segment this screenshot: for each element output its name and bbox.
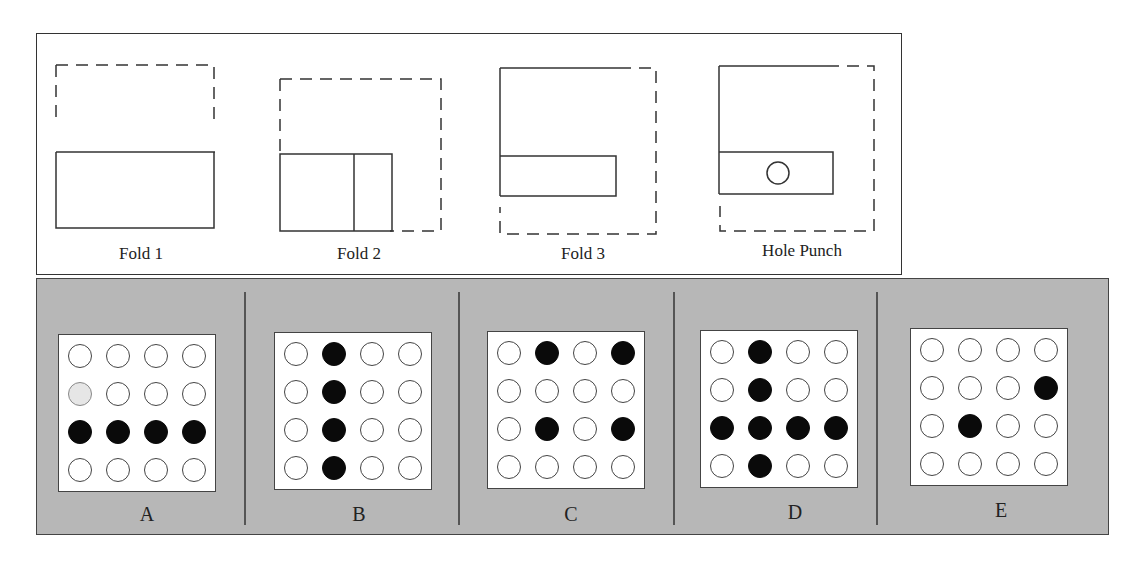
empty-hole [786, 378, 810, 402]
empty-hole [182, 458, 206, 482]
fold1-label: Fold 1 [119, 244, 163, 264]
empty-hole [182, 382, 206, 406]
fold3-figure [500, 68, 656, 234]
empty-hole [710, 454, 734, 478]
punched-hole [182, 420, 206, 444]
empty-hole [611, 379, 635, 403]
empty-hole [284, 418, 308, 442]
empty-hole [786, 340, 810, 364]
punched-hole [106, 420, 130, 444]
empty-hole [573, 417, 597, 441]
punched-hole [535, 341, 559, 365]
empty-hole [920, 452, 944, 476]
empty-hole [182, 344, 206, 368]
option-c-card[interactable] [487, 331, 645, 489]
option-d-card[interactable] [700, 330, 858, 488]
empty-hole [360, 456, 384, 480]
empty-hole [106, 344, 130, 368]
option-e-label: E [995, 499, 1007, 522]
empty-hole [106, 458, 130, 482]
empty-hole [144, 458, 168, 482]
empty-hole [398, 342, 422, 366]
punched-hole [748, 454, 772, 478]
empty-hole [284, 342, 308, 366]
divider [244, 292, 246, 525]
option-b-card[interactable] [274, 332, 432, 490]
empty-hole [996, 414, 1020, 438]
divider [876, 292, 878, 525]
empty-hole [535, 455, 559, 479]
empty-hole [1034, 338, 1058, 362]
empty-hole [573, 379, 597, 403]
punch-figure [719, 66, 874, 231]
punched-hole [611, 417, 635, 441]
empty-hole [398, 456, 422, 480]
empty-hole [360, 342, 384, 366]
empty-hole [106, 382, 130, 406]
empty-hole [497, 379, 521, 403]
empty-hole [920, 338, 944, 362]
punched-hole [322, 456, 346, 480]
empty-hole [497, 341, 521, 365]
punched-hole [322, 380, 346, 404]
fold2-figure [280, 79, 441, 231]
punched-hole [68, 420, 92, 444]
empty-hole [497, 417, 521, 441]
punched-hole [535, 417, 559, 441]
empty-hole [996, 338, 1020, 362]
punched-hole [958, 414, 982, 438]
empty-hole [710, 340, 734, 364]
fold2-label: Fold 2 [337, 244, 381, 264]
empty-hole [958, 338, 982, 362]
fold3-label: Fold 3 [561, 244, 605, 264]
option-a-label: A [140, 503, 154, 526]
punched-hole [144, 420, 168, 444]
option-a-card[interactable] [58, 334, 216, 492]
hole-punch-label: Hole Punch [762, 241, 842, 261]
empty-hole [284, 456, 308, 480]
empty-hole [1034, 452, 1058, 476]
empty-hole [958, 376, 982, 400]
empty-hole [360, 418, 384, 442]
empty-hole [996, 452, 1020, 476]
option-e-card[interactable] [910, 328, 1068, 486]
option-c-label: C [564, 503, 577, 526]
punched-hole [1034, 376, 1058, 400]
empty-hole [1034, 414, 1058, 438]
empty-hole [824, 454, 848, 478]
punch-hole-icon [767, 162, 789, 184]
empty-hole [535, 379, 559, 403]
folding-diagrams [37, 34, 903, 276]
option-d-label: D [788, 501, 802, 524]
empty-hole [824, 340, 848, 364]
empty-hole [398, 380, 422, 404]
empty-hole [786, 454, 810, 478]
empty-hole [68, 344, 92, 368]
punched-hole [748, 416, 772, 440]
divider [458, 292, 460, 525]
empty-hole [497, 455, 521, 479]
punched-hole [710, 416, 734, 440]
divider [673, 292, 675, 525]
empty-hole [824, 378, 848, 402]
empty-hole [920, 414, 944, 438]
fold1-figure [56, 65, 215, 228]
empty-hole [68, 382, 92, 406]
punched-hole [748, 340, 772, 364]
empty-hole [398, 418, 422, 442]
empty-hole [360, 380, 384, 404]
punched-hole [824, 416, 848, 440]
option-b-label: B [352, 503, 365, 526]
empty-hole [996, 376, 1020, 400]
answer-options-panel: A B C D E [36, 278, 1109, 535]
punched-hole [786, 416, 810, 440]
punched-hole [611, 341, 635, 365]
empty-hole [573, 341, 597, 365]
empty-hole [710, 378, 734, 402]
empty-hole [144, 382, 168, 406]
empty-hole [284, 380, 308, 404]
empty-hole [611, 455, 635, 479]
empty-hole [920, 376, 944, 400]
folding-steps-panel: Fold 1 Fold 2 Fold 3 Hole Punch [36, 33, 902, 275]
punched-hole [748, 378, 772, 402]
